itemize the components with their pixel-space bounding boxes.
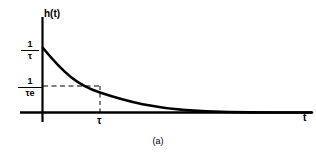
figure-container: h(t) t τ 1 τ 1 τe (a) xyxy=(0,0,316,156)
figure-caption: (a) xyxy=(0,136,316,146)
x-tick-label-tau: τ xyxy=(97,116,101,126)
exponential-decay-curve xyxy=(43,48,312,113)
fraction-numerator: 1 xyxy=(21,40,39,49)
fraction-numerator: 1 xyxy=(18,77,42,86)
y-tick-label-one-over-tau: 1 τ xyxy=(21,40,39,62)
plot-canvas xyxy=(0,0,316,156)
y-axis-label: h(t) xyxy=(44,9,60,19)
fraction-denominator: τ xyxy=(21,52,39,61)
x-axis-label: t xyxy=(303,113,306,123)
fraction-denominator: τe xyxy=(18,89,42,98)
y-tick-label-one-over-tau-e: 1 τe xyxy=(18,77,42,99)
